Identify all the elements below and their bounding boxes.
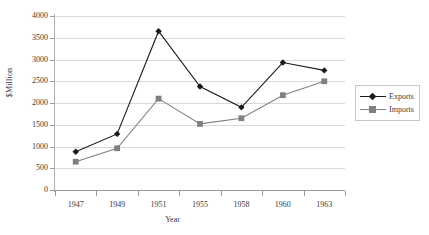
legend-label-exports: Exports xyxy=(386,92,414,101)
x-axis-tick-label: 1960 xyxy=(263,200,303,209)
legend-marker-diamond-icon xyxy=(360,91,386,102)
line-chart: $Million 0500100015002000250030003500400… xyxy=(0,0,429,235)
y-axis-tick xyxy=(50,147,54,148)
data-point-imports-1958[interactable] xyxy=(239,115,245,121)
x-axis-tick xyxy=(345,191,346,196)
data-point-imports-1960[interactable] xyxy=(280,92,286,98)
y-axis-tick xyxy=(50,103,54,104)
series-container xyxy=(55,16,345,190)
x-axis-tick xyxy=(138,191,139,196)
y-axis-tick-label: 0 xyxy=(4,186,48,194)
x-axis-line xyxy=(54,190,345,191)
x-axis-tick xyxy=(179,191,180,196)
data-point-imports-1955[interactable] xyxy=(197,121,203,127)
y-axis-tick-label: 3000 xyxy=(4,56,48,64)
y-axis-tick-label: 1500 xyxy=(4,121,48,129)
data-point-imports-1963[interactable] xyxy=(321,78,327,84)
x-axis-tick-label: 1951 xyxy=(139,200,179,209)
x-axis-tick xyxy=(304,191,305,196)
x-axis-tick-label: 1963 xyxy=(304,200,344,209)
y-axis-tick-label: 1000 xyxy=(4,143,48,151)
y-axis-tick xyxy=(50,16,54,17)
y-axis-tick xyxy=(50,81,54,82)
data-point-imports-1949[interactable] xyxy=(114,145,120,151)
y-axis-tick-label: 3500 xyxy=(4,34,48,42)
y-axis-tick-label: 4000 xyxy=(4,12,48,20)
x-axis-tick-label: 1958 xyxy=(221,200,261,209)
plot-area xyxy=(55,16,345,190)
x-axis-tick-label: 1955 xyxy=(180,200,220,209)
y-axis-tick-label: 2500 xyxy=(4,77,48,85)
legend-label-imports: Imports xyxy=(386,105,414,114)
series-line-exports xyxy=(76,31,325,151)
y-axis-tick-label: 2000 xyxy=(4,99,48,107)
legend-marker-square-icon xyxy=(360,104,386,115)
x-axis-title: Year xyxy=(0,215,429,224)
legend-item-exports[interactable]: Exports xyxy=(360,90,414,103)
y-axis-tick xyxy=(50,38,54,39)
x-axis-tick-label: 1949 xyxy=(97,200,137,209)
chart-legend: Exports Imports xyxy=(355,85,420,121)
data-point-exports-1949[interactable] xyxy=(114,131,120,137)
data-point-exports-1963[interactable] xyxy=(321,67,327,73)
x-axis-tick xyxy=(55,191,56,196)
data-point-exports-1947[interactable] xyxy=(73,149,79,155)
legend-item-imports[interactable]: Imports xyxy=(360,103,414,116)
data-point-imports-1951[interactable] xyxy=(156,96,162,102)
y-axis-tick xyxy=(50,60,54,61)
y-axis-tick xyxy=(50,190,54,191)
x-axis-tick xyxy=(262,191,263,196)
x-axis-tick xyxy=(221,191,222,196)
y-axis-tick-label: 500 xyxy=(4,164,48,172)
y-axis-tick xyxy=(50,168,54,169)
x-axis-tick xyxy=(96,191,97,196)
x-axis-tick-label: 1947 xyxy=(56,200,96,209)
data-point-imports-1947[interactable] xyxy=(73,159,79,165)
y-axis-tick xyxy=(50,125,54,126)
